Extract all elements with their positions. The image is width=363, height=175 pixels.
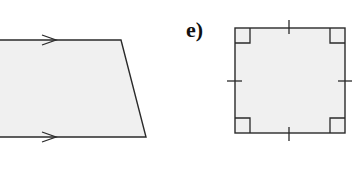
diagram-canvas [0,0,363,175]
figure-label: e) [186,17,203,43]
square [227,20,352,141]
trapezium [0,35,146,142]
